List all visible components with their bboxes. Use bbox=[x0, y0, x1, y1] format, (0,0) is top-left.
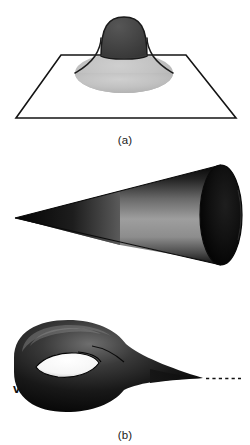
bump-dome bbox=[101, 17, 147, 59]
panel-a-bump-on-plane: (a) bbox=[0, 0, 250, 150]
panel-b-graphic bbox=[0, 150, 250, 300]
figure-root: (a) bbox=[0, 0, 250, 445]
cone-apex-shade bbox=[15, 191, 120, 245]
panel-c-horn-torus: ∞ (c) bbox=[0, 300, 250, 445]
panel-a-caption: (a) bbox=[0, 134, 250, 146]
bump-skirt-front bbox=[75, 73, 173, 93]
panel-a-graphic bbox=[0, 0, 250, 150]
cone-mouth-ellipse bbox=[200, 165, 242, 265]
panel-b-cone: v (b) bbox=[0, 150, 250, 300]
panel-c-graphic bbox=[0, 300, 250, 445]
